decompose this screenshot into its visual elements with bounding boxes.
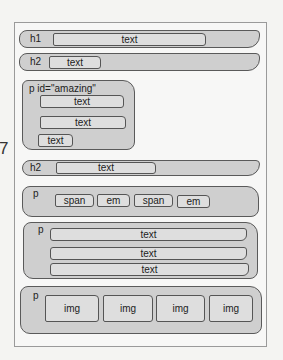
h1-block: h1 text (19, 30, 260, 48)
p-amazing-text-box: text (38, 134, 73, 147)
span-box: span (55, 194, 94, 207)
p-text-box: text (50, 228, 247, 241)
p-amazing-block: p id="amazing" text text text (22, 80, 135, 150)
p-label: p (33, 188, 39, 199)
p-amazing-text-box: text (40, 116, 126, 129)
h2-text-box: text (56, 162, 156, 174)
p-text-box: text (50, 247, 247, 260)
em-box: em (177, 195, 210, 208)
h2-block: h2 text (22, 160, 260, 176)
h1-label: h1 (30, 33, 41, 44)
page-number: 7 (0, 139, 8, 159)
p-img-block: p img img img img (20, 286, 262, 334)
h1-text-box: text (53, 33, 206, 46)
img-box: img (103, 295, 153, 322)
h2-block: h2 text (19, 53, 260, 71)
img-box: img (209, 295, 253, 322)
p-text-box: text (50, 263, 249, 276)
h2-label: h2 (30, 162, 41, 173)
img-box: img (156, 295, 205, 322)
p-amazing-label: p id="amazing" (29, 83, 96, 94)
p-amazing-text-box: text (40, 95, 124, 108)
p-label: p (33, 290, 39, 301)
p-inline-block: p span em span em (22, 186, 259, 217)
em-box: em (97, 194, 130, 207)
h2-text-box: text (49, 56, 101, 69)
span-box: span (134, 194, 173, 207)
p-text-block: p text text text (23, 222, 258, 279)
img-box: img (45, 295, 99, 322)
h2-label: h2 (30, 56, 41, 67)
p-label: p (38, 224, 44, 235)
